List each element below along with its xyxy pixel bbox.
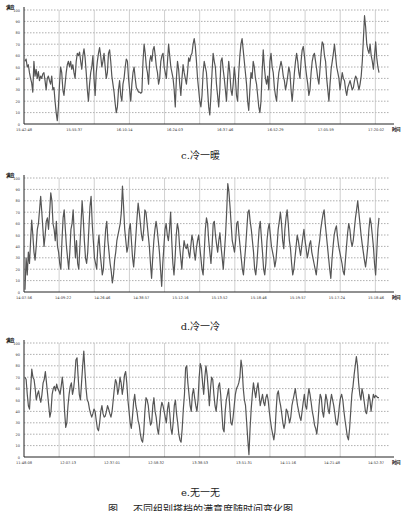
x-tick-label: 15:12:16 xyxy=(172,296,189,300)
x-tick-label: 14:52:37 xyxy=(368,461,384,465)
y-axis-label: 满意 xyxy=(5,337,15,344)
y-tick-label: 0 xyxy=(18,291,20,295)
x-tick-label: 14:38:57 xyxy=(133,296,149,300)
y-tick-label: 30 xyxy=(16,256,20,260)
x-tick-label: 14:21:48 xyxy=(324,461,341,465)
data-line xyxy=(25,351,379,455)
x-tick-label: 12:07:13 xyxy=(60,461,76,465)
y-tick-label: 90 xyxy=(16,188,20,192)
y-tick-label: 40 xyxy=(16,245,20,249)
line-chart-c: 0102030405060708090100满意15:42:4815:55:37… xyxy=(0,0,401,140)
y-tick-label: 70 xyxy=(16,211,20,215)
y-tick-label: 50 xyxy=(16,399,20,403)
chart-panel-d: 0102030405060708090100满意14:07:5614:09:22… xyxy=(0,168,401,308)
y-tick-label: 100 xyxy=(13,177,20,181)
x-tick-label: 16:52:29 xyxy=(267,128,284,132)
x-axis-label: 时间 xyxy=(392,126,401,133)
y-tick-label: 90 xyxy=(16,353,20,357)
x-tick-label: 15:18:46 xyxy=(368,296,385,300)
y-tick-label: 20 xyxy=(16,433,20,437)
y-tick-label: 80 xyxy=(16,31,20,35)
x-tick-label: 12:37:01 xyxy=(104,461,120,465)
x-tick-label: 15:17:24 xyxy=(329,296,346,300)
y-tick-label: 50 xyxy=(16,66,20,70)
x-tick-label: 15:18:46 xyxy=(251,296,268,300)
x-tick-label: 15:19:57 xyxy=(290,296,306,300)
x-tick-label: 12:58:32 xyxy=(148,461,164,465)
line-chart-d: 0102030405060708090100满意14:07:5614:09:22… xyxy=(0,168,401,308)
x-tick-label: 14:07:56 xyxy=(16,296,33,300)
x-tick-label: 14:26:46 xyxy=(94,296,111,300)
x-tick-label: 15:13:52 xyxy=(211,296,227,300)
data-line xyxy=(25,16,379,121)
y-tick-label: 10 xyxy=(16,279,20,283)
y-tick-label: 20 xyxy=(16,100,20,104)
y-tick-label: 60 xyxy=(16,54,20,58)
y-tick-label: 10 xyxy=(16,111,20,115)
y-tick-label: 40 xyxy=(16,77,20,81)
y-tick-label: 40 xyxy=(16,410,20,414)
data-line xyxy=(25,184,379,290)
x-tick-label: 15:55:37 xyxy=(66,128,82,132)
y-tick-label: 0 xyxy=(18,456,20,460)
y-tick-label: 50 xyxy=(16,234,20,238)
y-tick-label: 10 xyxy=(16,444,20,448)
chart-caption-d: d.冷一冷 xyxy=(0,318,401,333)
y-tick-label: 60 xyxy=(16,222,20,226)
y-tick-label: 100 xyxy=(13,9,20,13)
y-tick-label: 70 xyxy=(16,43,20,47)
y-axis-label: 满意 xyxy=(5,4,15,11)
x-axis-label: 时间 xyxy=(392,459,401,466)
y-tick-label: 100 xyxy=(13,342,20,346)
y-tick-label: 20 xyxy=(16,268,20,272)
y-tick-label: 30 xyxy=(16,421,20,425)
y-tick-label: 80 xyxy=(16,199,20,203)
x-tick-label: 11:48:08 xyxy=(16,461,33,465)
chart-panel-c: 0102030405060708090100满意15:42:4815:55:37… xyxy=(0,0,401,140)
x-tick-label: 16:37:46 xyxy=(217,128,234,132)
x-tick-label: 14:09:22 xyxy=(55,296,71,300)
x-tick-label: 15:42:48 xyxy=(16,128,33,132)
figure-caption: 图 ... 不同组别搭档的满意度随时间变化图 xyxy=(0,501,401,511)
y-tick-label: 60 xyxy=(16,387,20,391)
x-tick-label: 17:20:02 xyxy=(368,128,384,132)
chart-panel-e: 0102030405060708090100满意11:48:0812:07:13… xyxy=(0,333,401,473)
y-tick-label: 90 xyxy=(16,20,20,24)
y-tick-label: 80 xyxy=(16,364,20,368)
x-tick-label: 13:51:31 xyxy=(236,461,252,465)
x-tick-label: 14:11:16 xyxy=(280,461,297,465)
chart-caption-c: c.冷一暖 xyxy=(0,147,401,162)
y-axis-label: 满意 xyxy=(5,172,15,179)
x-tick-label: 13:38:53 xyxy=(192,461,208,465)
x-axis-label: 时间 xyxy=(392,294,401,301)
line-chart-e: 0102030405060708090100满意11:48:0812:07:13… xyxy=(0,333,401,473)
y-tick-label: 30 xyxy=(16,88,20,92)
y-tick-label: 0 xyxy=(18,123,20,127)
y-tick-label: 70 xyxy=(16,376,20,380)
x-tick-label: 16:24:03 xyxy=(167,128,183,132)
x-tick-label: 17:05:59 xyxy=(318,128,335,132)
chart-caption-e: e.无一无 xyxy=(0,484,401,499)
x-tick-label: 16:10:14 xyxy=(117,128,134,132)
